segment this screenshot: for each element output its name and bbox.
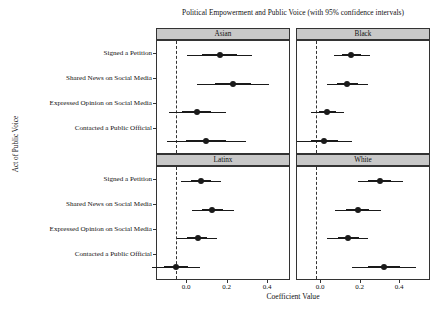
estimate-point (195, 235, 201, 241)
x-tick-label: 0.0 (176, 283, 196, 291)
y-tick-label-expressed-opinion-top: Expressed Opinion on Social Media (10, 99, 152, 107)
facet-panel-asian (156, 40, 290, 154)
plot-area (297, 41, 429, 153)
y-tick-label-signed-petition-bottom: Signed a Petition (10, 175, 152, 183)
y-tick-label-contacted-official-bottom: Contacted a Public Official (10, 250, 152, 258)
estimate-point (194, 109, 200, 115)
zero-reference-line (316, 41, 317, 153)
estimate-point (348, 52, 354, 58)
x-tick-label: 0.2 (217, 283, 237, 291)
y-tick-label-signed-petition-top: Signed a Petition (10, 49, 152, 57)
facet-strip-label: White (354, 156, 372, 164)
y-tick-mark (153, 254, 156, 255)
x-tick-label: 0.4 (389, 283, 409, 291)
y-tick-mark (153, 204, 156, 205)
plot-area (157, 167, 289, 279)
facet-strip-asian: Asian (156, 28, 290, 40)
y-tick-mark (153, 128, 156, 129)
y-tick-mark (153, 53, 156, 54)
x-tick-label: 0.4 (257, 283, 277, 291)
facet-panel-latinx (156, 166, 290, 280)
y-tick-mark (153, 229, 156, 230)
estimate-point (230, 81, 236, 87)
facet-panel-white (296, 166, 430, 280)
y-tick-mark (153, 103, 156, 104)
facet-strip-black: Black (296, 28, 430, 40)
y-tick-label-shared-news-bottom: Shared News on Social Media (10, 200, 152, 208)
estimate-point (355, 207, 361, 213)
y-tick-label-expressed-opinion-bottom: Expressed Opinion on Social Media (10, 225, 152, 233)
forest-plot-figure: Political Empowerment and Public Voice (… (0, 0, 440, 315)
plot-area (157, 41, 289, 153)
estimate-point (324, 109, 330, 115)
zero-reference-line (316, 167, 317, 279)
estimate-point (381, 264, 387, 270)
x-tick-label: 0.0 (310, 283, 330, 291)
chart-title: Political Empowerment and Public Voice (… (150, 8, 436, 17)
facet-strip-white: White (296, 154, 430, 166)
estimate-point (344, 81, 350, 87)
facet-panel-black (296, 40, 430, 154)
estimate-point (321, 138, 327, 144)
y-tick-mark (153, 78, 156, 79)
zero-reference-line (176, 41, 177, 153)
x-tick-label: 0.2 (350, 283, 370, 291)
estimate-point (209, 207, 215, 213)
estimate-point (198, 178, 204, 184)
estimate-point (217, 52, 223, 58)
y-tick-label-shared-news-top: Shared News on Social Media (10, 74, 152, 82)
x-axis-title: Coefficient Value (150, 292, 436, 301)
facet-strip-label: Latinx (214, 156, 233, 164)
estimate-point (203, 138, 209, 144)
facet-strip-label: Asian (215, 30, 232, 38)
y-tick-mark (153, 179, 156, 180)
estimate-point (377, 178, 383, 184)
y-tick-label-contacted-official-top: Contacted a Public Official (10, 124, 152, 132)
zero-reference-line (176, 167, 177, 279)
estimate-point (345, 235, 351, 241)
plot-area (297, 167, 429, 279)
facet-strip-latinx: Latinx (156, 154, 290, 166)
estimate-point (173, 264, 179, 270)
facet-strip-label: Black (355, 30, 372, 38)
